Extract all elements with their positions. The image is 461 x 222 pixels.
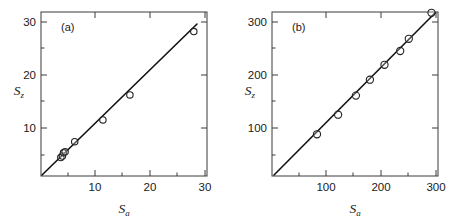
y-tick-label: 200 (248, 69, 267, 81)
x-tick-label: 100 (316, 181, 335, 193)
panel-b-canvas: 100 200 300 100 200 300 (b) Sa Sz (231, 0, 461, 222)
data-point (127, 92, 133, 98)
data-point (428, 9, 435, 16)
data-point (191, 28, 197, 34)
data-point (72, 139, 78, 145)
y-axis-label: Sz (14, 83, 25, 100)
x-tick-label: 300 (426, 181, 445, 193)
panel-a-data-markers (58, 28, 197, 160)
x-tick-label: 20 (144, 181, 157, 193)
x-tick-label: 30 (199, 181, 212, 193)
chart-panel-b: 100 200 300 100 200 300 (b) Sa Sz (231, 0, 461, 222)
y-tick-label: 100 (248, 122, 267, 134)
x-tick-label: 200 (371, 181, 390, 193)
data-point (352, 92, 359, 99)
y-tick-label: 30 (23, 16, 36, 28)
chart-panel-a: 10 20 30 10 20 30 (a) Sa Sz (0, 0, 230, 222)
x-tick-label: 10 (89, 181, 102, 193)
x-axis-label: Sa (349, 201, 361, 218)
data-point (381, 61, 388, 68)
y-tick-label: 20 (23, 69, 36, 81)
data-point (100, 117, 106, 123)
y-tick-label: 300 (248, 16, 267, 28)
data-point (397, 47, 404, 54)
panel-b-tick-labels: 100 200 300 100 200 300 (248, 16, 446, 193)
figure-container: 10 20 30 10 20 30 (a) Sa Sz (0, 0, 461, 222)
data-point (335, 111, 342, 118)
panel-label-a: (a) (61, 21, 74, 33)
panel-a-canvas: 10 20 30 10 20 30 (a) Sa Sz (0, 0, 230, 222)
data-point (405, 35, 412, 42)
y-tick-label: 10 (23, 122, 36, 134)
panel-a-plot-area: 10 20 30 10 20 30 (a) Sa Sz (14, 12, 212, 218)
data-point (313, 131, 320, 138)
data-point (62, 149, 68, 155)
y-axis-label: Sz (245, 83, 256, 100)
x-axis-label: Sa (118, 201, 130, 218)
data-point (366, 76, 373, 83)
panel-label-b: (b) (292, 21, 305, 33)
panel-b-plot-area: 100 200 300 100 200 300 (b) Sa Sz (245, 9, 446, 218)
